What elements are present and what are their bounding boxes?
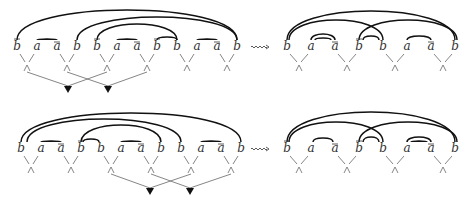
stem xyxy=(184,156,189,164)
wedge-icon xyxy=(296,65,302,71)
letter-a: a xyxy=(403,141,410,155)
wedge-icon xyxy=(68,167,74,173)
arrowhead-icon xyxy=(266,147,269,151)
letter-a: a xyxy=(197,141,204,155)
wedge-icon xyxy=(392,167,398,173)
matching-arc xyxy=(363,137,379,142)
letter-b: b xyxy=(97,141,105,155)
wedge-icon xyxy=(104,65,110,71)
stem xyxy=(144,156,149,164)
letter-a: a xyxy=(307,39,314,53)
triangle-node-icon xyxy=(64,86,72,93)
letter-a-bar: a xyxy=(137,141,144,155)
letter-b-bar: b xyxy=(355,141,363,155)
wedge-icon xyxy=(344,65,350,71)
stem xyxy=(290,156,297,164)
stem xyxy=(445,156,452,164)
wedge-icon xyxy=(144,65,150,71)
rewrite-arrow-icon xyxy=(251,148,267,150)
stem xyxy=(349,54,356,62)
matching-arc xyxy=(27,119,181,142)
letter-b: b xyxy=(73,39,81,53)
letter-a-bar: a xyxy=(57,141,64,155)
wedge-icon xyxy=(148,167,154,173)
stem xyxy=(33,156,38,164)
stem xyxy=(24,156,29,164)
stem xyxy=(301,156,308,164)
letter-a: a xyxy=(307,141,314,155)
stem xyxy=(233,156,238,164)
letter-b: b xyxy=(177,141,185,155)
stem xyxy=(386,156,393,164)
stem xyxy=(69,54,74,62)
stem xyxy=(29,54,34,62)
letter-b-bar: b xyxy=(77,141,85,155)
letter-a-bar: a xyxy=(427,39,434,53)
wedge-icon xyxy=(28,167,34,173)
stem xyxy=(20,54,25,62)
stem xyxy=(220,54,225,62)
stem xyxy=(100,54,105,62)
letter-a-bar: a xyxy=(133,39,140,53)
wedge-icon xyxy=(64,65,70,71)
matching-arc xyxy=(363,36,379,40)
wedge-icon xyxy=(228,167,234,173)
letter-b-bar: b xyxy=(153,39,161,53)
letter-b: b xyxy=(451,141,459,155)
stem xyxy=(397,156,404,164)
letter-b: b xyxy=(173,39,181,53)
wedge-icon xyxy=(224,65,230,71)
letter-a: a xyxy=(33,39,40,53)
tree-link xyxy=(108,72,147,86)
arrowhead-icon xyxy=(266,45,269,49)
wedge-icon xyxy=(392,65,398,71)
wedge-icon xyxy=(108,167,114,173)
stem xyxy=(224,156,229,164)
diagram-canvas: baabbaabbaabbaabbaabbaabbaabbaabbaabbaab xyxy=(0,0,475,204)
stem xyxy=(386,54,393,62)
stem xyxy=(193,156,198,164)
tree-link xyxy=(111,174,150,188)
matching-arc xyxy=(21,113,241,142)
rewrite-arrow-icon xyxy=(251,46,267,48)
letter-a-bar: a xyxy=(331,141,338,155)
panel-bottom-left: baabbaabbaab xyxy=(17,113,245,195)
letter-a: a xyxy=(117,141,124,155)
tree-link xyxy=(190,174,231,188)
matching-arc xyxy=(289,122,383,142)
stem xyxy=(113,156,118,164)
stem xyxy=(109,54,114,62)
letter-b-bar: b xyxy=(355,39,363,53)
letter-b: b xyxy=(237,141,245,155)
letter-b: b xyxy=(17,141,25,155)
wedge-icon xyxy=(24,65,30,71)
stem xyxy=(229,54,234,62)
stem xyxy=(153,156,158,164)
wedge-icon xyxy=(184,65,190,71)
wedge-icon xyxy=(296,167,302,173)
matching-arc xyxy=(315,38,331,40)
letter-a: a xyxy=(193,39,200,53)
triangle-node-icon xyxy=(104,86,112,93)
letter-a-bar: a xyxy=(53,39,60,53)
letter-a: a xyxy=(403,39,410,53)
stem xyxy=(140,54,145,62)
letter-a-bar: a xyxy=(331,39,338,53)
matching-arc xyxy=(411,141,427,142)
wedge-icon xyxy=(188,167,194,173)
letter-b: b xyxy=(283,39,291,53)
letter-b-bar: b xyxy=(13,39,21,53)
letter-b: b xyxy=(379,39,387,53)
stem xyxy=(180,54,185,62)
letter-b: b xyxy=(451,39,459,53)
letter-a-bar: a xyxy=(427,141,434,155)
stem xyxy=(338,54,345,62)
panel-bottom-right: baabbaab xyxy=(283,112,459,173)
letter-a-bar: a xyxy=(213,39,220,53)
stem xyxy=(434,156,441,164)
stem xyxy=(64,156,69,164)
panel-top-right: baabbaab xyxy=(283,11,459,71)
stem xyxy=(60,54,65,62)
letter-b: b xyxy=(157,141,165,155)
wedge-icon xyxy=(344,167,350,173)
